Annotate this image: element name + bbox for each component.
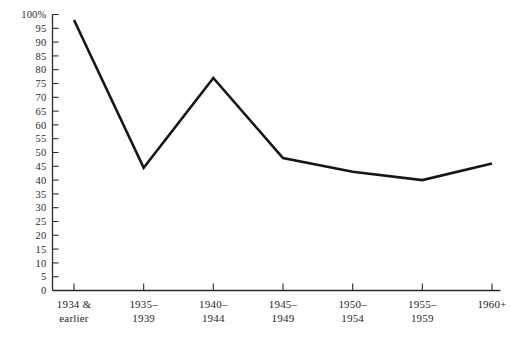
x-axis-tick-label: 1955–1959 [408, 298, 437, 324]
y-axis-tick-label: 60 [36, 120, 47, 131]
x-axis-tick-label: 1934 &earlier [57, 298, 92, 324]
y-axis-tick-label: 85 [36, 51, 47, 62]
x-axis: 1934 &earlier1935–19391940–19441945–1949… [53, 284, 507, 324]
y-axis-tick-label: 55 [36, 133, 47, 144]
y-axis-tick-label: 25 [36, 216, 47, 227]
x-axis-tick-label: 1935–1939 [129, 298, 158, 324]
y-axis-tick-label: 90 [36, 37, 47, 48]
y-axis-tick-label: 95 [36, 23, 47, 34]
y-axis-tick-label: 5 [41, 271, 46, 282]
y-axis-tick-label: 30 [36, 202, 47, 213]
x-axis-tick-label: 1945–1949 [269, 298, 298, 324]
y-axis: 100%959085807570656055504540353025201510… [21, 9, 58, 296]
x-axis-tick-label: 1950–1954 [338, 298, 367, 324]
y-axis-tick-label: 75 [36, 78, 47, 89]
x-axis-tick-label: 1940–1944 [199, 298, 228, 324]
y-axis-tick-label: 70 [36, 92, 47, 103]
line-chart-figure: 100%959085807570656055504540353025201510… [0, 0, 511, 348]
y-axis-tick-label: 10 [36, 258, 47, 269]
y-axis-tick-label: 50 [36, 147, 47, 158]
y-axis-tick-label: 35 [36, 189, 47, 200]
y-axis-tick-label: 0 [41, 285, 46, 296]
y-axis-tick-label: 40 [36, 175, 47, 186]
chart-canvas: 100%959085807570656055504540353025201510… [0, 0, 511, 348]
x-axis-tick-label: 1960+ [477, 298, 506, 310]
y-axis-tick-label: 45 [36, 161, 47, 172]
series-line [74, 20, 492, 180]
data-series [74, 20, 492, 180]
y-axis-tick-label: 15 [36, 244, 47, 255]
y-axis-tick-label: 20 [36, 230, 47, 241]
y-axis-tick-label: 65 [36, 106, 47, 117]
y-axis-tick-label: 80 [36, 64, 47, 75]
y-axis-tick-label: 100% [21, 9, 46, 20]
